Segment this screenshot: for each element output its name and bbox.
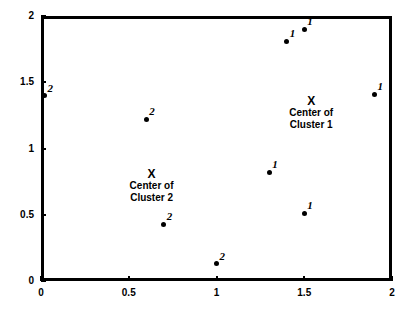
x-tick-label: 0 [21, 287, 61, 298]
center-of-cluster-1-marker: X [301, 95, 321, 107]
data-point-label: 2 [149, 106, 155, 117]
data-point [42, 93, 47, 98]
center-of-cluster-1-caption: Center ofCluster 1 [266, 107, 356, 131]
y-tick-label: 0 [0, 275, 34, 286]
data-point-label: 1 [377, 81, 383, 92]
data-point-label: 1 [307, 16, 313, 27]
data-point [144, 117, 149, 122]
y-tick-mark [41, 15, 46, 17]
center-of-cluster-1-caption-line: Cluster 1 [266, 119, 356, 131]
data-point-label: 2 [48, 83, 54, 94]
y-tick-mark [41, 280, 46, 282]
x-tick-mark [303, 276, 305, 281]
y-tick-label: 2 [0, 10, 34, 21]
data-point-label: 1 [272, 159, 278, 170]
x-tick-label: 2 [372, 287, 412, 298]
data-point-label: 2 [167, 211, 173, 222]
center-of-cluster-2-caption: Center ofCluster 2 [107, 180, 197, 204]
data-point [267, 170, 272, 175]
center-of-cluster-2-marker: X [142, 168, 162, 180]
x-tick-label: 1 [197, 287, 237, 298]
y-tick-mark [41, 214, 46, 216]
y-tick-mark [41, 148, 46, 150]
center-of-cluster-2-caption-line: Cluster 2 [107, 192, 197, 204]
y-tick-label: 0.5 [0, 209, 34, 220]
scatter-plot-figure: 00.511.52 00.511.52 111112222XCenter ofC… [0, 0, 414, 309]
data-point [372, 92, 377, 97]
x-tick-mark [128, 276, 130, 281]
x-tick-label: 0.5 [109, 287, 149, 298]
data-point [302, 27, 307, 32]
data-point [284, 39, 289, 44]
data-point [214, 261, 219, 266]
y-tick-label: 1 [0, 143, 34, 154]
x-tick-mark [391, 276, 393, 281]
data-point-label: 1 [290, 28, 296, 39]
center-of-cluster-1-caption-line: Center of [266, 107, 356, 119]
data-point-label: 2 [220, 251, 226, 262]
data-point [161, 222, 166, 227]
center-of-cluster-2-caption-line: Center of [107, 180, 197, 192]
y-tick-mark [41, 81, 46, 83]
data-point-label: 1 [307, 200, 313, 211]
plot-data-area: 111112222XCenter ofCluster 1XCenter ofCl… [41, 16, 392, 281]
x-tick-mark [216, 276, 218, 281]
data-point [302, 211, 307, 216]
y-tick-label: 1.5 [0, 76, 34, 87]
x-tick-label: 1.5 [284, 287, 324, 298]
